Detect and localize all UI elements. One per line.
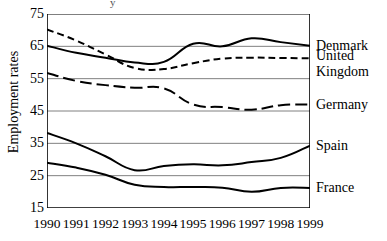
x-tick-1995: 1995 <box>180 217 207 231</box>
x-tick-1994: 1994 <box>150 217 177 231</box>
series-line-united-kingdom <box>47 30 310 71</box>
x-tick-1993: 1993 <box>121 217 148 231</box>
series-label-united: United <box>316 48 354 63</box>
y-tick-55: 55 <box>20 72 44 86</box>
chart-figure: y Employment rates 75655545352515 199019… <box>0 0 387 241</box>
x-tick-1990: 1990 <box>34 217 61 231</box>
x-tick-1998: 1998 <box>267 217 294 231</box>
plot-area <box>47 14 310 208</box>
y-tick-45: 45 <box>20 104 44 118</box>
y-tick-15: 15 <box>20 201 44 215</box>
x-tick-1996: 1996 <box>209 217 236 231</box>
series-label-france: France <box>316 180 354 195</box>
series-label-kingdom: Kingdom <box>316 64 369 79</box>
y-tick-65: 65 <box>20 39 44 53</box>
series-line-denmark <box>47 38 310 64</box>
y-tick-75: 75 <box>20 7 44 21</box>
x-tick-1992: 1992 <box>92 217 119 231</box>
series-labels: DenmarkUnitedKingdomGermanySpainFrance <box>316 0 387 241</box>
x-axis-tick-labels: 1990199119921993199419951996199719981999 <box>47 213 310 237</box>
y-tick-35: 35 <box>20 136 44 150</box>
x-tick-1997: 1997 <box>238 217 265 231</box>
series-line-spain <box>47 133 310 171</box>
y-axis-tick-labels: 75655545352515 <box>14 0 44 241</box>
gridlines <box>47 46 310 175</box>
cropped-text-artifact: y <box>110 0 116 8</box>
series-line-france <box>47 163 310 192</box>
chart-svg <box>47 14 310 208</box>
series-label-spain: Spain <box>316 138 348 153</box>
series-label-germany: Germany <box>316 97 368 112</box>
y-tick-25: 25 <box>20 169 44 183</box>
x-tick-1991: 1991 <box>63 217 90 231</box>
